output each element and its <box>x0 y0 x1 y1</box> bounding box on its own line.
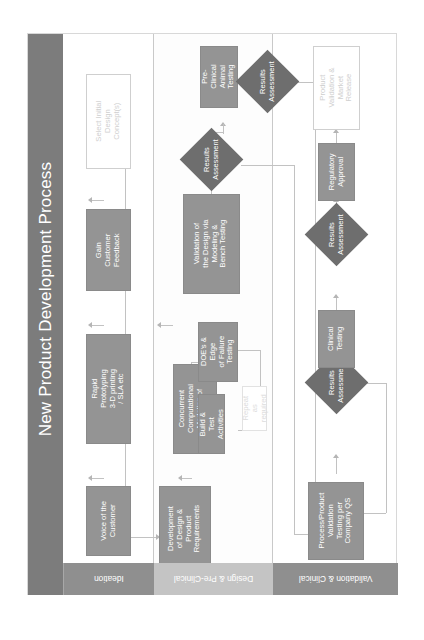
node-repeat-as-required[interactable]: Repeat as required <box>242 386 267 431</box>
node-label: Validation of the Design via Modeling & … <box>194 220 229 268</box>
node-build-test-activities[interactable]: Build & Test Activities <box>198 394 225 454</box>
connector <box>90 325 104 326</box>
node-label: Product Validation & Market Release <box>319 66 354 111</box>
node-rapid-prototyping[interactable]: Rapid Prototyping 3-D printing / SLA etc <box>86 334 131 444</box>
node-label: Results Assessment <box>259 61 276 101</box>
arrow-head <box>178 475 182 481</box>
swimlane-header-spacer <box>28 563 63 595</box>
arrow-head <box>333 294 339 298</box>
swimlane-design-preclinical <box>154 34 273 563</box>
node-label: Results Assessment <box>203 139 220 179</box>
connector <box>336 456 337 474</box>
arrow-head <box>88 322 92 328</box>
node-label: DOE's & Edge of Failure Testing <box>200 333 235 371</box>
swimlane-header-strip: Ideation Design & Pre-Clinical Validatio… <box>28 563 398 595</box>
swimlane-label: Validation & Clinical <box>299 574 372 583</box>
node-label: Gain Customer Feedback <box>95 233 121 266</box>
connector <box>238 350 260 351</box>
swimlane-header-design-preclinical: Design & Pre-Clinical <box>154 563 273 595</box>
connector <box>90 200 104 201</box>
connector <box>315 82 316 534</box>
node-label: Process/Product Validation Testing per C… <box>318 493 353 549</box>
connector <box>336 296 337 310</box>
node-label: Development of Design & Product Requirem… <box>167 505 202 552</box>
node-label: Build & Test Activities <box>198 409 224 439</box>
connector <box>361 513 386 514</box>
node-product-validation-market-release[interactable]: Product Validation & Market Release <box>313 46 360 130</box>
node-validation-design-modeling-bench-testing[interactable]: Validation of the Design via Modeling & … <box>183 194 240 294</box>
node-label: Regulatory Approval <box>328 154 346 191</box>
node-gain-customer-feedback[interactable]: Gain Customer Feedback <box>86 209 131 291</box>
node-label: Rapid Prototyping 3-D printing / SLA etc <box>91 368 126 411</box>
diagram-title-bar: New Product Development Process <box>28 34 63 563</box>
node-label: Select Initial Design Concept(s) <box>95 101 121 142</box>
node-development-design-product-requirements[interactable]: Development of Design & Product Requirem… <box>159 486 211 571</box>
page-title: New Product Development Process <box>36 161 56 436</box>
node-voice-of-customer[interactable]: Voice of the Customer <box>86 486 131 556</box>
swimlane-header-ideation: Ideation <box>63 563 154 595</box>
flowchart-frame: New Product Development Process <box>27 33 397 595</box>
arrow-head <box>333 454 339 458</box>
node-results-assessment-4[interactable]: Results Assessment <box>314 212 359 257</box>
connector <box>386 383 387 513</box>
swimlane-header-validation-clinical: Validation & Clinical <box>273 563 398 595</box>
connector <box>294 165 295 535</box>
arrow-head <box>88 197 92 203</box>
screenshot-canvas: New Product Development Process <box>0 0 424 640</box>
connector <box>241 165 294 166</box>
node-label: Results Assessment <box>328 362 345 402</box>
node-label: Pre-Clinical Animal Testing <box>201 59 236 95</box>
node-regulatory-approval[interactable]: Regulatory Approval <box>318 143 355 201</box>
connector <box>90 478 104 479</box>
swimlane-label: Design & Pre-Clinical <box>174 574 253 583</box>
connector <box>223 124 224 134</box>
connector <box>159 325 173 326</box>
arrow-head <box>88 475 92 481</box>
node-select-initial-design-concepts[interactable]: Select Initial Design Concept(s) <box>86 74 131 169</box>
node-results-assessment-2[interactable]: Results Assessment <box>245 59 290 104</box>
swimlane-label: Ideation <box>94 574 124 583</box>
node-clinical-testing[interactable]: Clinical Testing <box>318 310 355 368</box>
arrow-head <box>157 322 161 328</box>
node-process-product-validation-testing[interactable]: Process/Product Validation Testing per C… <box>308 482 364 560</box>
node-pre-clinical-animal-testing[interactable]: Pre-Clinical Animal Testing <box>200 46 238 108</box>
node-results-assessment-1[interactable]: Results Assessment <box>189 137 234 182</box>
node-doe-edge-of-failure-testing[interactable]: DOE's & Edge of Failure Testing <box>198 322 238 382</box>
node-label: Results Assessment <box>328 214 345 254</box>
connector <box>260 350 261 386</box>
node-label: Repeat as required <box>241 395 267 423</box>
node-label: Clinical Testing <box>328 327 346 351</box>
node-label: Voice of the Customer <box>100 501 118 541</box>
